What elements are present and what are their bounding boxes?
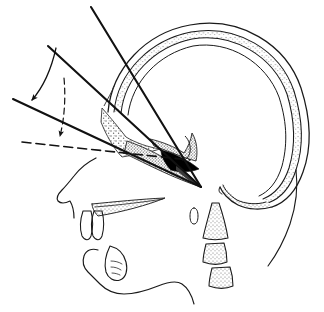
atlas-anterior-arch xyxy=(190,208,198,224)
c4-vertebra-body xyxy=(209,267,233,288)
c3-vertebra-body xyxy=(203,243,227,264)
skull-tracing-canvas xyxy=(0,0,324,312)
cephalometric-figure xyxy=(0,0,324,312)
